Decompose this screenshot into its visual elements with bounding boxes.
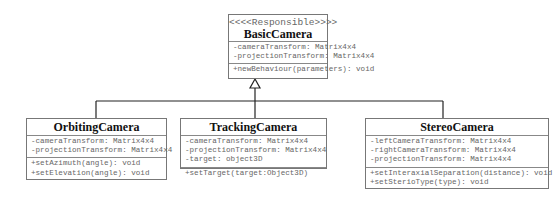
class-stereo-camera: StereoCamera -leftCameraTransform: Matri…	[365, 118, 549, 189]
attribute: -rightCameraTransform: Matrix4x4	[370, 146, 544, 155]
class-name: TrackingCamera	[181, 119, 326, 135]
methods-section: +newBehaviour(parameters): void	[229, 63, 327, 76]
attributes-section: -cameraTransform: Matrix4x4 -projectionT…	[229, 41, 327, 63]
attributes-section: -cameraTransform: Matrix4x4 -projectionT…	[27, 135, 166, 157]
attribute: -projectionTransform: Matrix4x4	[185, 146, 322, 155]
method: +setInteraxialSeparation(distance): void	[370, 169, 544, 178]
attributes-section: -leftCameraTransform: Matrix4x4 -rightCa…	[366, 135, 548, 167]
attributes-section: -cameraTransform: Matrix4x4 -projectionT…	[181, 135, 326, 167]
attribute: -projectionTransform: Matrix4x4	[370, 155, 544, 164]
attribute: -cameraTransform: Matrix4x4	[185, 137, 322, 146]
class-name: BasicCamera	[229, 28, 327, 41]
method: +setAzimuth(angle): void	[31, 159, 162, 168]
method: +setElevation(angle): void	[31, 169, 162, 178]
attribute: -leftCameraTransform: Matrix4x4	[370, 137, 544, 146]
class-name: StereoCamera	[366, 119, 548, 135]
methods-section: +setTarget(target:Object3D)	[181, 167, 326, 180]
class-orbiting-camera: OrbitingCamera -cameraTransform: Matrix4…	[26, 118, 167, 180]
method: +setTarget(target:Object3D)	[185, 169, 322, 178]
methods-section: +setInteraxialSeparation(distance): void…	[366, 167, 548, 189]
class-name: OrbitingCamera	[27, 119, 166, 135]
attribute: -projectionTransform: Matrix4x4	[233, 52, 323, 61]
attribute: -cameraTransform: Matrix4x4	[233, 43, 323, 52]
attribute: -target: object3D	[185, 155, 322, 164]
class-tracking-camera: TrackingCamera -cameraTransform: Matrix4…	[180, 118, 327, 169]
methods-section: +setAzimuth(angle): void +setElevation(a…	[27, 157, 166, 179]
method: +newBehaviour(parameters): void	[233, 65, 323, 74]
attribute: -projectionTransform: Matrix4x4	[31, 146, 162, 155]
generalization-arrow-icon	[250, 79, 260, 88]
class-basic-camera: <<<<Responsible>>>> BasicCamera -cameraT…	[228, 14, 328, 79]
method: +setSterioType(type): void	[370, 178, 544, 187]
attribute: -cameraTransform: Matrix4x4	[31, 137, 162, 146]
